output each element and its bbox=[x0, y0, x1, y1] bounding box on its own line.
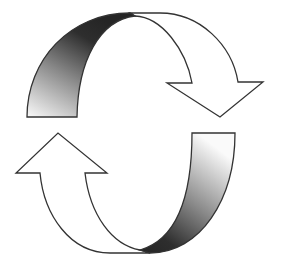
top-arrow bbox=[27, 13, 263, 117]
bottom-arrow bbox=[16, 133, 235, 253]
cycle-diagram bbox=[0, 0, 282, 279]
cycle-arrows-icon bbox=[0, 0, 282, 279]
